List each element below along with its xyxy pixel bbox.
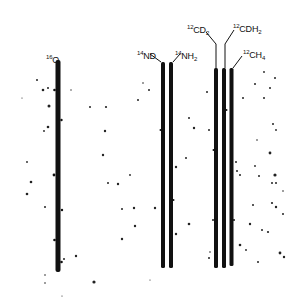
label-ch4-12: 12CH4 bbox=[243, 47, 265, 63]
label-cd2-12: 12CD2 bbox=[187, 22, 209, 38]
line-texture bbox=[53, 89, 235, 264]
mass-spectrum-plate: 16O 14ND 14NH2 12CD2 12CDH2 12CH4 bbox=[0, 0, 301, 298]
line-nd14 bbox=[161, 62, 165, 268]
line-cd2-12 bbox=[214, 68, 218, 268]
spectrum-lines-graphic bbox=[0, 0, 301, 298]
line-ch4-12 bbox=[230, 68, 234, 266]
label-o16: 16O bbox=[46, 52, 59, 65]
line-cdh2-12 bbox=[222, 68, 226, 268]
line-nh2-14 bbox=[169, 62, 173, 268]
label-cdh2-12: 12CDH2 bbox=[233, 21, 261, 37]
label-nh2-14: 14NH2 bbox=[175, 48, 197, 64]
label-nd14: 14ND bbox=[137, 48, 156, 61]
line-o16 bbox=[56, 60, 61, 272]
leader-ch4 bbox=[233, 56, 242, 68]
